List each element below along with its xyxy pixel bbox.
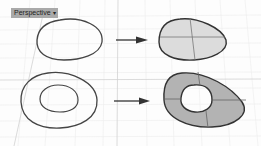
arrow-right-icon: [114, 98, 150, 105]
planar-surface[interactable]: [159, 18, 226, 60]
arrow-right-icon: [116, 37, 148, 44]
viewport-title-tab[interactable]: Perspective ▾: [11, 8, 58, 18]
closed-curve[interactable]: [37, 19, 102, 60]
viewport-canvas: [0, 0, 261, 146]
chevron-down-icon[interactable]: ▾: [53, 8, 56, 18]
viewport-title: Perspective: [14, 8, 51, 18]
planar-surface-with-hole[interactable]: [164, 72, 246, 128]
outer-curve[interactable]: [21, 73, 97, 129]
perspective-viewport[interactable]: Perspective ▾: [0, 0, 261, 146]
